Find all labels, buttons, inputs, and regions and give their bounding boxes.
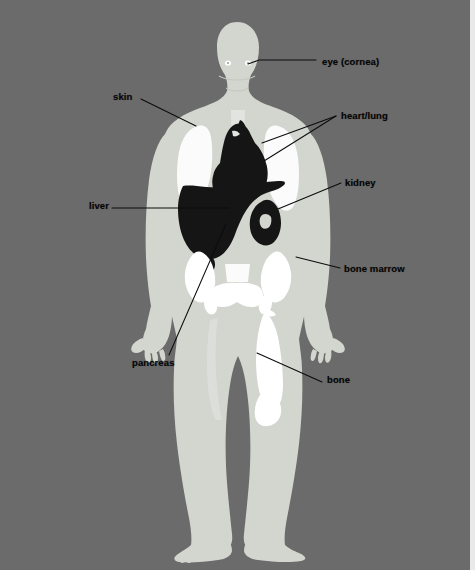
label-bone-marrow: bone marrow: [344, 264, 405, 274]
eye-right-pupil: [227, 62, 229, 64]
label-eye: eye (cornea): [322, 57, 379, 67]
diagram-canvas: eye (cornea) skin heart/lung kidney live…: [0, 0, 475, 570]
label-skin: skin: [113, 92, 132, 102]
label-bone: bone: [327, 375, 350, 385]
leader-eye: [248, 60, 316, 64]
label-liver: liver: [89, 201, 109, 211]
page-edge-strip: [470, 0, 475, 570]
body-phantom-figure: [0, 0, 475, 570]
label-kidney: kidney: [345, 178, 376, 188]
label-pancreas: pancreas: [132, 358, 175, 368]
right-fingers-3: [311, 349, 317, 361]
right-fingers-2: [318, 351, 324, 363]
right-foot: [244, 543, 305, 562]
label-heart-lung: heart/lung: [341, 111, 388, 121]
leader-skin: [141, 99, 196, 126]
